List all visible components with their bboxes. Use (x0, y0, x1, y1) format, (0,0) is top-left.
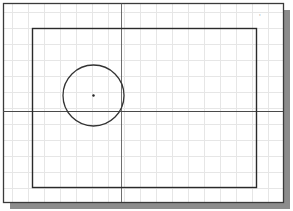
drawing-area[interactable]: ' (0, 0, 293, 211)
circle-center-point[interactable] (92, 94, 94, 96)
corner-marker-icon: ' (259, 12, 261, 22)
cad-drawing-canvas[interactable]: ' (0, 0, 293, 211)
